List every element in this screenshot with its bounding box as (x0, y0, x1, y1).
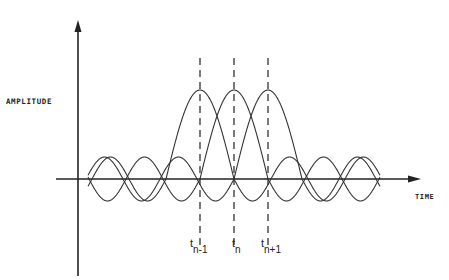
marker-lines (200, 58, 268, 246)
y-axis (75, 20, 82, 276)
x-axis (56, 176, 421, 183)
x-axis-label: TIME (415, 193, 434, 201)
y-axis-arrow-icon (75, 20, 82, 32)
marker-label-n+1: tn+1 (261, 237, 281, 255)
x-axis-arrow-icon (408, 176, 421, 183)
marker-label-n-1: tn-1 (190, 237, 208, 255)
pulse-diagram: AMPLITUDE TIME tn-1 tn tn+1 (0, 0, 449, 280)
marker-label-n: tn (232, 237, 241, 255)
y-axis-label: AMPLITUDE (6, 97, 52, 106)
